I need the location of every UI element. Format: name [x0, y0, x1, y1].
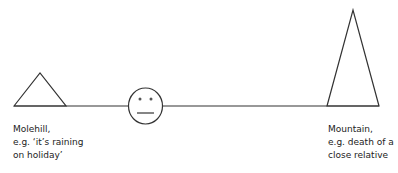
molehill-triangle: [14, 73, 66, 106]
mountain-title: Mountain,: [328, 123, 394, 136]
mountain-triangle: [327, 10, 379, 106]
molehill-example-1: e.g. ‘it’s raining: [13, 136, 83, 149]
molehill-example-2: on holiday’: [13, 149, 83, 162]
mountain-example-1: e.g. death of a: [328, 136, 394, 149]
neutral-face-icon: [129, 88, 163, 124]
mountain-example-2: close relative: [328, 149, 394, 162]
molehill-title: Molehill,: [13, 123, 83, 136]
molehill-label: Molehill, e.g. ‘it’s raining on holiday’: [13, 123, 83, 162]
mountain-label: Mountain, e.g. death of a close relative: [328, 123, 394, 162]
